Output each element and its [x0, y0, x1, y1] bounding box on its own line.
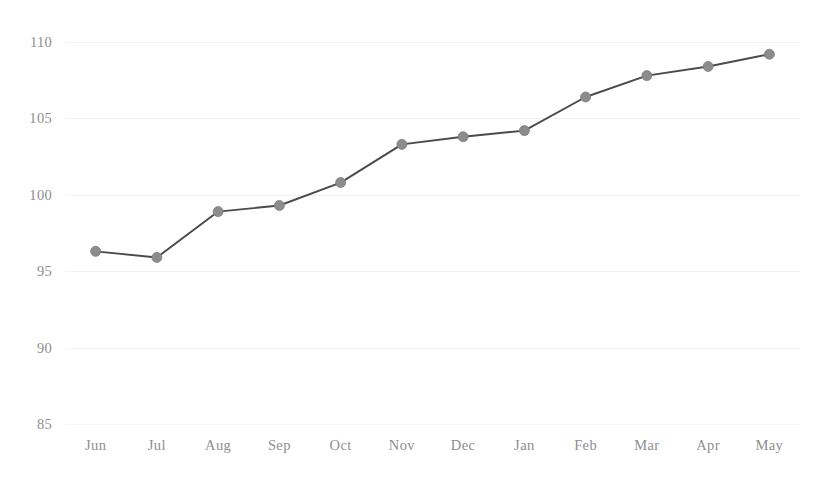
data-point	[458, 132, 468, 142]
data-point	[642, 71, 652, 81]
series-layer	[0, 0, 817, 495]
data-point	[581, 92, 591, 102]
series-line	[96, 54, 770, 257]
data-point	[213, 207, 223, 217]
line-chart: 859095100105110 JunJulAugSepOctNovDecJan…	[0, 0, 817, 495]
data-point	[152, 252, 162, 262]
data-point	[519, 126, 529, 136]
data-point	[91, 246, 101, 256]
data-point	[764, 49, 774, 59]
data-point	[274, 201, 284, 211]
data-point	[336, 178, 346, 188]
data-point	[397, 139, 407, 149]
data-point	[703, 61, 713, 71]
